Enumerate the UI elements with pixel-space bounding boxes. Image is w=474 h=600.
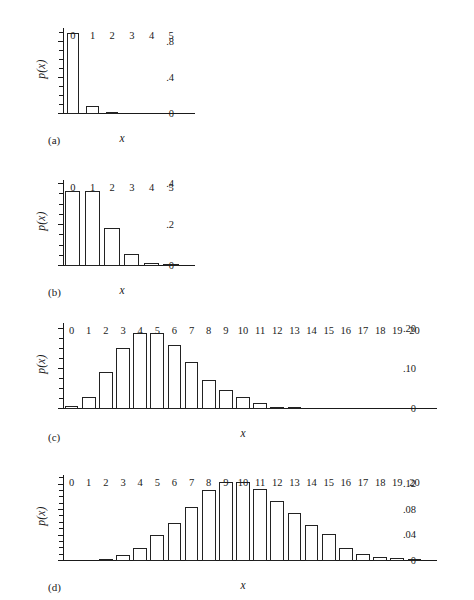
y-tick-minor-d xyxy=(59,554,63,555)
x-tick-label-c-0: 0 xyxy=(69,326,74,423)
x-tick-label-c-7: 7 xyxy=(189,326,194,423)
x-tick-label-a-3: 3 xyxy=(129,31,134,128)
y-tick-major-b xyxy=(58,183,63,184)
panel-label-d: (d) xyxy=(48,581,61,593)
y-tick-minor-c xyxy=(59,388,63,389)
x-tick-label-d-9: 9 xyxy=(223,478,228,575)
y-tick-minor-d xyxy=(59,490,63,491)
x-tick-label-d-11: 11 xyxy=(255,478,265,575)
x-tick-label-b-2: 2 xyxy=(110,183,115,280)
x-tick-label-d-3: 3 xyxy=(120,478,125,575)
x-tick-label-a-0: 0 xyxy=(70,31,75,128)
y-tick-major-d xyxy=(58,560,63,561)
x-tick-label-c-2: 2 xyxy=(103,326,108,423)
y-axis-line-a xyxy=(63,28,64,114)
x-tick-label-c-19: 19 xyxy=(392,326,403,423)
x-axis-title-b: x xyxy=(119,284,124,296)
y-tick-major-a xyxy=(58,77,63,78)
y-tick-major-a xyxy=(58,41,63,42)
y-tick-major-d xyxy=(58,535,63,536)
x-tick-label-d-20: 20 xyxy=(409,478,420,575)
y-tick-major-b xyxy=(58,224,63,225)
x-tick-label-b-3: 3 xyxy=(129,183,134,280)
x-tick-label-d-12: 12 xyxy=(272,478,283,575)
y-tick-minor-d xyxy=(59,477,63,478)
y-axis-title-c: p(x) xyxy=(35,340,47,388)
y-tick-minor-d xyxy=(59,541,63,542)
x-tick-label-c-11: 11 xyxy=(255,326,265,423)
x-tick-label-c-3: 3 xyxy=(120,326,125,423)
x-tick-label-c-10: 10 xyxy=(238,326,249,423)
x-axis-title-c: x xyxy=(240,427,245,439)
y-tick-major-c xyxy=(58,328,63,329)
y-axis-title-d: p(x) xyxy=(35,492,47,540)
plot-area-c: 0.10.2001234567891011121314151617181920 xyxy=(63,323,423,409)
x-tick-label-d-6: 6 xyxy=(172,478,177,575)
x-tick-label-d-2: 2 xyxy=(103,478,108,575)
y-tick-minor-c xyxy=(59,338,63,339)
x-tick-label-d-19: 19 xyxy=(392,478,403,575)
y-tick-minor-a xyxy=(59,50,63,51)
x-tick-label-b-0: 0 xyxy=(70,183,75,280)
y-tick-minor-a xyxy=(59,86,63,87)
chart-panel-b: 0.2.4012345p(x)x(b) xyxy=(0,158,474,303)
probability-histogram-figure: 0.4.8012345p(x)x(a) 0.2.4012345p(x)x(b) … xyxy=(0,0,474,600)
y-tick-major-c xyxy=(58,408,63,409)
x-tick-label-a-1: 1 xyxy=(90,31,95,128)
x-tick-label-c-12: 12 xyxy=(272,326,283,423)
x-tick-label-a-5: 5 xyxy=(169,31,174,128)
x-tick-label-c-14: 14 xyxy=(306,326,317,423)
x-axis-title-d: x xyxy=(240,579,245,591)
plot-area-d: 0.04.08.12012345678910111213141516171819… xyxy=(63,475,423,561)
x-tick-label-a-2: 2 xyxy=(110,31,115,128)
x-tick-label-c-16: 16 xyxy=(341,326,352,423)
y-axis-title-a: p(x) xyxy=(35,45,47,93)
x-tick-label-c-9: 9 xyxy=(223,326,228,423)
y-tick-minor-b xyxy=(59,245,63,246)
x-tick-label-d-5: 5 xyxy=(155,478,160,575)
y-tick-minor-c xyxy=(59,358,63,359)
plot-area-a: 0.4.8012345 xyxy=(63,28,181,114)
x-tick-label-d-1: 1 xyxy=(86,478,91,575)
x-tick-label-c-13: 13 xyxy=(289,326,300,423)
x-tick-label-c-15: 15 xyxy=(323,326,334,423)
y-tick-minor-a xyxy=(59,104,63,105)
panel-label-b: (b) xyxy=(48,286,61,298)
y-tick-minor-d xyxy=(59,528,63,529)
x-tick-label-d-14: 14 xyxy=(306,478,317,575)
y-tick-minor-d xyxy=(59,515,63,516)
x-tick-label-c-4: 4 xyxy=(138,326,143,423)
plot-area-b: 0.2.4012345 xyxy=(63,180,181,266)
y-tick-major-c xyxy=(58,368,63,369)
panel-label-a: (a) xyxy=(48,134,60,146)
x-tick-label-b-5: 5 xyxy=(169,183,174,280)
x-tick-label-b-1: 1 xyxy=(90,183,95,280)
y-axis-line-d xyxy=(63,475,64,561)
y-axis-title-b: p(x) xyxy=(35,197,47,245)
y-tick-minor-a xyxy=(59,95,63,96)
y-tick-minor-b xyxy=(59,204,63,205)
x-tick-label-d-0: 0 xyxy=(69,478,74,575)
y-tick-minor-b xyxy=(59,234,63,235)
y-axis-line-b xyxy=(63,180,64,266)
x-tick-label-c-17: 17 xyxy=(358,326,369,423)
y-tick-minor-c xyxy=(59,398,63,399)
y-tick-minor-a xyxy=(59,32,63,33)
chart-panel-c: 0.10.2001234567891011121314151617181920p… xyxy=(0,305,474,453)
x-tick-label-d-4: 4 xyxy=(138,478,143,575)
x-tick-label-d-10: 10 xyxy=(238,478,249,575)
x-tick-label-d-16: 16 xyxy=(341,478,352,575)
y-tick-minor-b xyxy=(59,255,63,256)
x-tick-label-c-18: 18 xyxy=(375,326,386,423)
y-tick-major-a xyxy=(58,113,63,114)
y-tick-minor-a xyxy=(59,68,63,69)
x-axis-title-a: x xyxy=(119,132,124,144)
y-tick-minor-d xyxy=(59,496,63,497)
y-tick-minor-c xyxy=(59,378,63,379)
x-tick-label-d-8: 8 xyxy=(206,478,211,575)
x-tick-label-b-4: 4 xyxy=(149,183,154,280)
y-tick-minor-d xyxy=(59,503,63,504)
y-axis-line-c xyxy=(63,323,64,409)
y-tick-minor-a xyxy=(59,59,63,60)
x-tick-label-d-13: 13 xyxy=(289,478,300,575)
